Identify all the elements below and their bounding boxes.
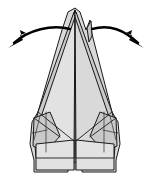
left-base-flap [36,140,74,170]
right-base-flap [76,140,114,170]
origami-diagram-canvas [0,0,150,187]
origami-illustration [0,0,150,187]
